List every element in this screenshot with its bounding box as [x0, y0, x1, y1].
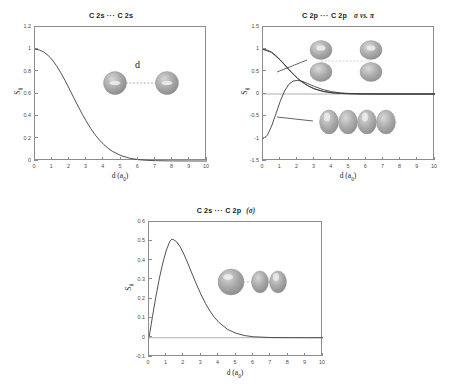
x-tick-label: 0 [141, 359, 155, 365]
y-tick-label: -0.5 [236, 112, 259, 118]
y-tick-mark [262, 48, 266, 49]
title-right-label: C 2p [225, 206, 241, 215]
x-tick-label: 3 [307, 163, 321, 169]
x-tick-label: 1 [272, 163, 286, 169]
x-tick-mark [85, 157, 86, 161]
x-tick-mark [262, 157, 263, 161]
x-tick-mark [382, 157, 383, 161]
x-tick-label: 7 [263, 359, 277, 365]
plot-panel-2s-2p: C 2s ··· C 2p (σ) [112, 196, 340, 389]
x-tick-label: 10 [427, 163, 441, 169]
x-tick-mark [200, 353, 201, 357]
x-tick-label: 1 [44, 163, 58, 169]
title-dots: ··· [107, 11, 116, 20]
x-tick-label: 6 [245, 359, 259, 365]
x-tick-mark [182, 353, 183, 357]
y-tick-label: 0.5 [122, 237, 145, 243]
y-tick-mark [262, 160, 266, 161]
plot-title-2s-2p: C 2s ··· C 2p (σ) [112, 206, 340, 215]
x-tick-label: 5 [341, 163, 355, 169]
x-tick-label: 7 [147, 163, 161, 169]
x-tick-mark [154, 157, 155, 161]
x-tick-mark [296, 157, 297, 161]
x-tick-mark [348, 157, 349, 161]
y-tick-mark [262, 26, 266, 27]
x-tick-mark [330, 157, 331, 161]
title-left-label: C 2p [302, 11, 318, 20]
x-tick-mark [279, 157, 280, 161]
y-axis-label-2p-2p: Sij [240, 71, 251, 111]
x-tick-mark [188, 157, 189, 161]
y-tick-mark [148, 317, 152, 318]
orbital-diagram-sigma [313, 105, 407, 139]
x-tick-mark [206, 157, 207, 161]
x-tick-mark [51, 157, 52, 161]
y-tick-mark [148, 221, 152, 222]
x-tick-label: 10 [199, 163, 213, 169]
y-tick-mark [262, 93, 266, 94]
y-tick-label: 1 [236, 45, 259, 51]
title-dots: ··· [214, 206, 223, 215]
y-tick-mark [148, 336, 152, 337]
x-tick-mark [252, 353, 253, 357]
y-tick-mark [148, 240, 152, 241]
y-tick-label: -1 [236, 135, 259, 141]
x-tick-mark [287, 353, 288, 357]
orbital-diagram-pi [305, 33, 393, 89]
x-tick-label: 4 [96, 163, 110, 169]
y-tick-label: 0.6 [122, 218, 145, 224]
x-tick-mark [269, 353, 270, 357]
y-tick-label: 0.2 [8, 135, 31, 141]
y-tick-mark [34, 70, 38, 71]
y-axis-label-2s-2p: Sij [124, 267, 135, 307]
x-tick-label: 4 [211, 359, 225, 365]
x-tick-label: 8 [393, 163, 407, 169]
y-tick-label: 0.1 [122, 314, 145, 320]
y-tick-label: 0.4 [8, 112, 31, 118]
y-tick-label: 1 [8, 45, 31, 51]
x-tick-mark [365, 157, 366, 161]
orbital-diagram-2s-2p [215, 264, 303, 300]
title-suffix-sigma-pi: σ vs. π [354, 12, 374, 20]
x-tick-label: 9 [298, 359, 312, 365]
x-tick-label: 6 [130, 163, 144, 169]
x-tick-mark [235, 353, 236, 357]
title-left-label: C 2s [197, 206, 213, 215]
y-tick-mark [262, 115, 266, 116]
x-tick-mark [137, 157, 138, 161]
x-tick-mark [304, 353, 305, 357]
x-tick-label: 0 [255, 163, 269, 169]
y-tick-label: 1.2 [8, 23, 31, 29]
title-right-label: C 2s [117, 11, 133, 20]
y-tick-mark [34, 160, 38, 161]
x-tick-label: 2 [176, 359, 190, 365]
plot-axes-2s-2p [148, 221, 322, 356]
x-tick-label: 1 [158, 359, 172, 365]
y-tick-mark [34, 137, 38, 138]
title-dots: ··· [320, 11, 329, 20]
y-tick-mark [148, 278, 152, 279]
x-tick-mark [434, 157, 435, 161]
x-tick-label: 8 [165, 163, 179, 169]
y-tick-mark [148, 356, 152, 357]
x-tick-mark [148, 353, 149, 357]
y-tick-mark [262, 70, 266, 71]
x-tick-label: 10 [315, 359, 329, 365]
x-tick-label: 6 [358, 163, 372, 169]
x-tick-label: 5 [113, 163, 127, 169]
plot-axes-2p-2p [262, 26, 434, 160]
y-tick-label: 1.5 [236, 23, 259, 29]
y-tick-label: 0.4 [122, 257, 145, 263]
title-right-label: C 2p [331, 11, 347, 20]
x-tick-label: 5 [228, 359, 242, 365]
title-left-label: C 2s [89, 11, 105, 20]
x-tick-mark [322, 353, 323, 357]
x-tick-label: 2 [289, 163, 303, 169]
x-axis-label-2p-2p: d (a0) [262, 171, 434, 182]
x-tick-label: 8 [280, 359, 294, 365]
plot-title-2s-2s: C 2s ··· C 2s [0, 11, 222, 20]
x-tick-mark [102, 157, 103, 161]
x-tick-mark [313, 157, 314, 161]
x-tick-label: 9 [410, 163, 424, 169]
y-tick-mark [262, 137, 266, 138]
